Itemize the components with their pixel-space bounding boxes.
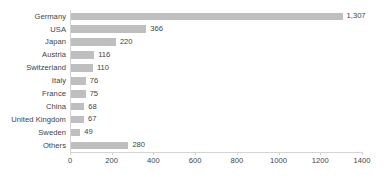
- category-label: Germany: [0, 13, 66, 21]
- bar-track: 1,307: [70, 10, 384, 23]
- value-axis-tick-mark: [237, 152, 238, 155]
- bar-track: 49: [70, 126, 384, 139]
- bar-row: Austria116: [0, 49, 384, 62]
- value-axis-tick-label: 0: [68, 157, 72, 165]
- value-axis-tick-mark: [153, 152, 154, 155]
- bar-track: 220: [70, 36, 384, 49]
- value-axis-tick-mark: [112, 152, 113, 155]
- bar-row: Sweden49: [0, 126, 384, 139]
- bar-value-label: 220: [120, 38, 133, 46]
- bar-value-label: 366: [150, 25, 163, 33]
- bar: [70, 51, 94, 59]
- bar: [70, 103, 84, 111]
- category-label: USA: [0, 26, 66, 34]
- category-axis-line: [70, 10, 71, 152]
- bar-row: USA366: [0, 23, 384, 36]
- value-axis-tick-mark: [320, 152, 321, 155]
- bar-track: 76: [70, 74, 384, 87]
- plot-area: Germany1,307USA366Japan220Austria116Swit…: [0, 0, 384, 190]
- bar-row: Others280: [0, 139, 384, 152]
- bar: [70, 142, 128, 150]
- bar-value-label: 49: [84, 128, 92, 136]
- bar: [70, 64, 93, 72]
- bar-value-label: 280: [132, 141, 145, 149]
- bar-track: 67: [70, 113, 384, 126]
- bar: [70, 90, 86, 98]
- bar-row: Switzerland110: [0, 62, 384, 75]
- bar-value-label: 67: [88, 115, 96, 123]
- category-label: Others: [0, 142, 66, 150]
- bar-track: 366: [70, 23, 384, 36]
- bar-value-label: 116: [98, 51, 110, 59]
- category-label: Japan: [0, 38, 66, 46]
- bar: [70, 25, 146, 33]
- bar-track: 280: [70, 139, 384, 152]
- bar-track: 75: [70, 87, 384, 100]
- bar-value-label: 110: [97, 64, 109, 72]
- bar-track: 116: [70, 49, 384, 62]
- bar-track: 110: [70, 62, 384, 75]
- value-axis-tick-label: 1200: [312, 157, 329, 165]
- value-axis-tick-label: 1000: [270, 157, 287, 165]
- bar-value-label: 75: [90, 90, 98, 98]
- bar-chart: Germany1,307USA366Japan220Austria116Swit…: [0, 0, 384, 190]
- bar-row: Italy76: [0, 74, 384, 87]
- category-label: China: [0, 103, 66, 111]
- bar-row: China68: [0, 100, 384, 113]
- value-axis-tick-mark: [195, 152, 196, 155]
- value-axis-ticks: 0200400600800100012001400: [0, 152, 384, 166]
- category-label: Switzerland: [0, 64, 66, 72]
- category-label: United Kingdom: [0, 116, 66, 124]
- bar: [70, 129, 80, 137]
- value-axis-tick-mark: [279, 152, 280, 155]
- bar-value-label: 76: [90, 77, 98, 85]
- bar-value-label: 68: [88, 103, 96, 111]
- bar-rows: Germany1,307USA366Japan220Austria116Swit…: [0, 10, 384, 152]
- value-axis-tick-label: 800: [231, 157, 244, 165]
- value-axis-tick-label: 200: [105, 157, 118, 165]
- bar: [70, 38, 116, 46]
- category-label: France: [0, 90, 66, 98]
- bar: [70, 13, 343, 21]
- bar: [70, 116, 84, 124]
- value-axis-tick-mark: [362, 152, 363, 155]
- bar-track: 68: [70, 100, 384, 113]
- bar-row: United Kingdom67: [0, 113, 384, 126]
- bar: [70, 77, 86, 85]
- value-axis-tick-mark: [70, 152, 71, 155]
- value-axis-tick-label: 600: [189, 157, 202, 165]
- bar-value-label: 1,307: [347, 12, 366, 20]
- category-label: Italy: [0, 77, 66, 85]
- bar-row: France75: [0, 87, 384, 100]
- value-axis-tick-label: 400: [147, 157, 160, 165]
- category-label: Austria: [0, 51, 66, 59]
- value-axis-tick-label: 1400: [354, 157, 371, 165]
- bar-row: Japan220: [0, 36, 384, 49]
- category-label: Sweden: [0, 129, 66, 137]
- bar-row: Germany1,307: [0, 10, 384, 23]
